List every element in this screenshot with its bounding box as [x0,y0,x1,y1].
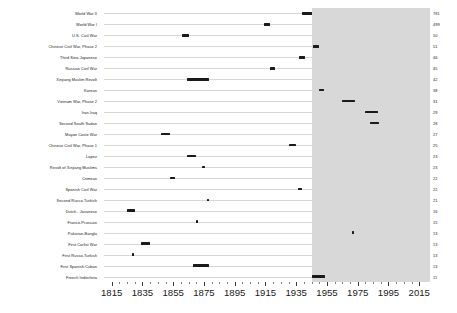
gridline [104,13,430,14]
bar[interactable] [141,242,150,245]
bar[interactable] [187,78,209,81]
bar[interactable] [193,264,208,267]
y-axis-tick-label: Chinese Civil War, Phase 1 [48,143,97,148]
x-axis-minor-tick [166,282,167,284]
bar[interactable] [370,122,379,125]
y-axis-tick-label: French Indochina [66,274,97,279]
gridline [104,244,430,245]
x-axis-tick [419,282,420,286]
x-axis-tick [142,282,143,286]
bar-value-label: 31 [433,99,437,104]
x-axis-minor-tick [381,282,382,284]
x-axis-tick-label: 1955 [316,287,337,298]
x-axis-minor-tick [242,282,243,284]
bar[interactable] [352,231,354,234]
x-axis-minor-tick [365,282,366,284]
gridline [104,266,430,267]
gridline [104,35,430,36]
gridline [104,101,430,102]
x-axis-tick-label: 1875 [193,287,214,298]
gridline [104,112,430,113]
bar[interactable] [182,34,188,37]
bar-value-label: 38 [433,88,437,93]
y-axis-tick-label: Franco-Prussian [68,219,97,224]
x-axis-minor-tick [373,282,374,284]
bar[interactable] [312,275,326,278]
gridline [104,255,430,256]
x-axis-minor-tick [212,282,213,284]
bar[interactable] [127,209,135,212]
x-axis-tick-label: 1935 [286,287,307,298]
bar[interactable] [187,155,196,158]
bar[interactable] [298,188,303,191]
x-axis: 1815183518551875189519151935195519751995… [104,282,430,310]
x-axis-tick [358,282,359,286]
bar-value-label: 25 [433,143,437,148]
gridline [104,178,430,179]
y-axis-tick-label: Korean [84,88,97,93]
y-axis-tick-label: Russian Civil War [65,66,97,71]
bar[interactable] [299,56,305,59]
x-axis-minor-tick [289,282,290,284]
y-axis-tick-label: First Russo-Turkish [62,252,97,257]
bar[interactable] [302,12,311,15]
bar[interactable] [264,23,270,26]
gridline [104,277,430,278]
bar[interactable] [170,177,175,180]
x-axis-minor-tick [335,282,336,284]
x-axis-minor-tick [158,282,159,284]
x-axis-tick [204,282,205,286]
bar-value-label: 45 [433,66,437,71]
y-axis-labels: World War IIWorld War IU.S. Civil WarChi… [0,8,100,282]
gridline [104,123,430,124]
bar[interactable] [270,67,275,70]
bar-value-label: 15 [433,219,437,224]
gridline [104,222,430,223]
x-axis-tick [265,282,266,286]
y-axis-tick-label: Lopez [86,153,97,158]
bar[interactable] [289,144,297,147]
bar[interactable] [161,133,170,136]
gridline [104,68,430,69]
y-axis-tick-label: Crimean [82,175,97,180]
x-axis-tick [296,282,297,286]
gridline [104,90,430,91]
gridline [104,156,430,157]
x-axis-tick [173,282,174,286]
x-axis-minor-tick [119,282,120,284]
gridline [104,167,430,168]
bar-value-label: 13 [433,230,437,235]
gridline [104,189,430,190]
bar[interactable] [313,45,319,48]
y-axis-tick-label: Spanish Civil War [65,186,97,191]
x-axis-minor-tick [304,282,305,284]
bar-value-label: 28 [433,121,437,126]
bar-value-label: 22 [433,175,437,180]
x-axis-minor-tick [281,282,282,284]
y-axis-tick-label: U.S. Civil War [72,33,97,38]
x-axis-tick-label: 1835 [132,287,153,298]
x-axis-minor-tick [412,282,413,284]
bar-value-label: 23 [433,153,437,158]
bar-value-label: 13 [433,241,437,246]
y-axis-tick-label: Iran-Iraq [82,110,97,115]
bar[interactable] [132,253,134,256]
bar[interactable] [207,199,209,202]
y-axis-tick-label: First Carlist War [68,241,97,246]
bar-value-label: 29 [433,110,437,115]
gridline [104,57,430,58]
y-axis-tick-label: Second South Sudan [59,121,97,126]
x-axis-minor-tick [342,282,343,284]
gridline [104,46,430,47]
x-axis-minor-tick [196,282,197,284]
x-axis-tick-label: 1915 [255,287,276,298]
bar-value-label: 11 [433,274,437,279]
bar-value-label: 46 [433,55,437,60]
x-axis-minor-tick [404,282,405,284]
x-axis-tick-label: 1815 [101,287,122,298]
x-axis-minor-tick [227,282,228,284]
x-axis-tick [112,282,113,286]
gridline [104,200,430,201]
x-axis-minor-tick [135,282,136,284]
bar-value-label: 23 [433,164,437,169]
